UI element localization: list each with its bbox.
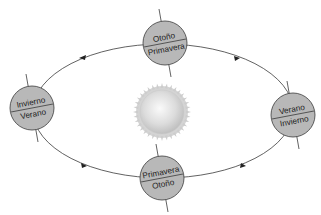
earth-right: Verano Invierno	[271, 81, 315, 149]
earth-top: Otoño Primavera	[143, 9, 187, 77]
sun	[133, 83, 191, 141]
seasons-orbit-diagram: Otoño Primavera Invierno Verano Verano I…	[0, 0, 321, 215]
earth-bottom: Primavera Otoño	[140, 144, 184, 212]
earth-left: Invierno Verano	[10, 74, 54, 142]
